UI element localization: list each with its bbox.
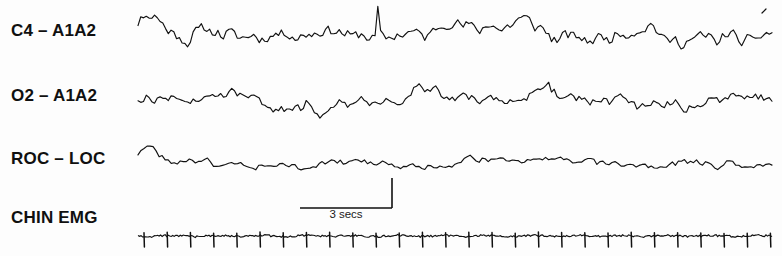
polysomnogram-chart: C4 – A1A2 O2 – A1A2 ROC – LOC CHIN EMG 3… <box>0 0 782 256</box>
trace-chin-emg <box>138 235 772 238</box>
chin-emg-ecg-artifacts <box>144 232 771 247</box>
channel-label-c4-a1a2: C4 – A1A2 <box>11 22 96 39</box>
trace-o2-a1a2 <box>138 82 772 118</box>
trace-c4-a1a2 <box>138 6 772 49</box>
calibration-label: 3 secs <box>300 209 392 221</box>
channel-label-chin-emg: CHIN EMG <box>11 209 98 226</box>
channel-label-roc-loc: ROC – LOC <box>11 150 105 167</box>
trace-roc-loc <box>138 146 772 170</box>
channel-label-o2-a1a2: O2 – A1A2 <box>11 87 97 104</box>
calibration-bracket <box>300 178 392 208</box>
scan-artifact-tick <box>762 9 766 13</box>
